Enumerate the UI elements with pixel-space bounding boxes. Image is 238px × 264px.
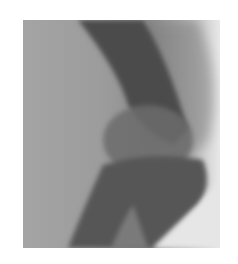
radiograph-image <box>23 20 220 248</box>
radiograph-shapes <box>23 20 220 248</box>
